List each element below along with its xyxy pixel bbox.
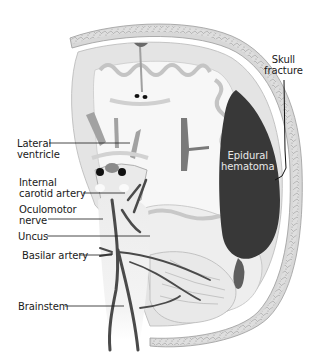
label-lateral-ventricle: Lateral ventricle (17, 138, 60, 160)
label-skull-fracture: Skull fracture (264, 54, 303, 76)
epidural-hematoma-illustration: Skull fracture Lateral ventricle Epidura… (0, 0, 315, 364)
label-basilar-artery: Basilar artery (22, 250, 88, 261)
label-brainstem: Brainstem (18, 301, 68, 312)
label-internal-carotid-artery: Internal carotid artery (19, 177, 86, 199)
label-epidural-hematoma: Epidural hematoma (221, 150, 274, 172)
label-uncus: Uncus (18, 231, 48, 242)
label-oculomotor-nerve: Oculomotor nerve (19, 204, 77, 226)
